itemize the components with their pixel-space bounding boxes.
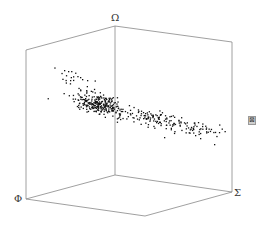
axis-label-phi: Φ [14,194,22,204]
scatter-points [48,67,226,145]
options-icon[interactable]: ⊠ [248,116,256,125]
axis-label-omega: Ω [111,13,119,23]
axis-box [26,26,232,216]
axis-label-sigma: Σ [234,188,241,198]
plot-area [0,0,260,233]
chart-3d-scatter: Ω Φ Σ ⊠ [0,0,260,233]
